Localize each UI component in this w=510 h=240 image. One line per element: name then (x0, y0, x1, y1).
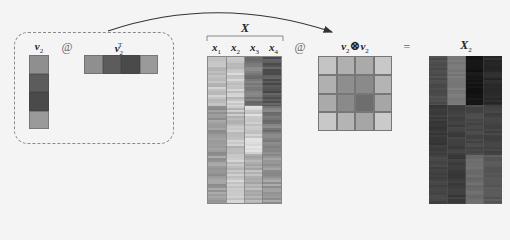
outer-product-symbol: ⊗ (350, 38, 361, 53)
x-matrix-row-strip (208, 202, 226, 204)
outer-product-cell (318, 94, 337, 113)
outer-product-cell (318, 56, 337, 75)
v2-cell (29, 92, 49, 111)
x-matrix-label: X (236, 23, 254, 34)
outer-product-cell (337, 75, 356, 94)
outer-product-cell (374, 75, 393, 94)
x2-matrix-row-strip (429, 203, 447, 204)
x3-sub: 3 (256, 48, 260, 56)
x4-sub: 4 (275, 48, 279, 56)
x2-sub: 2 (237, 48, 241, 56)
x2-matrix-row-strip (447, 203, 465, 204)
v2-cell (29, 111, 49, 130)
outer-right-sub: 2 (365, 47, 369, 55)
x-data-matrix (207, 56, 282, 204)
outer-product-cell (355, 94, 374, 113)
x1-sub: 1 (218, 48, 222, 56)
column-divider (447, 56, 448, 204)
v2-column-vector (29, 55, 49, 129)
column-divider (244, 57, 245, 203)
x2-result-matrix (429, 56, 502, 204)
v2T-cell (121, 55, 140, 74)
x-matrix-row-strip (263, 202, 281, 204)
outer-product-matrix (318, 56, 392, 131)
outer-product-cell (355, 75, 374, 94)
x2-matrix-row-strip (484, 203, 502, 204)
outer-product-cell (374, 112, 393, 131)
v2T-cell (103, 55, 122, 74)
outer-product-cell (318, 112, 337, 131)
v2-cell (29, 74, 49, 93)
outer-product-cell (337, 112, 356, 131)
outer-product-cell (355, 56, 374, 75)
v2-label-sub: 2 (40, 47, 44, 55)
x-matrix-row-strip (226, 202, 244, 204)
outer-product-cell (374, 94, 393, 113)
equals-operator: = (400, 40, 414, 55)
v2T-label-sup: T (118, 41, 122, 49)
column-divider (226, 57, 227, 203)
column-divider (465, 56, 466, 204)
v2T-row-vector (84, 55, 158, 74)
column-divider (262, 57, 263, 203)
v2T-cell (140, 55, 159, 74)
v2-cell (29, 55, 49, 74)
outer-product-cell (318, 75, 337, 94)
x-column-labels: x1 x2 x3 x4 (207, 42, 283, 54)
column-divider (483, 56, 484, 204)
x-matrix-row-strip (245, 202, 263, 204)
outer-product-cell (355, 112, 374, 131)
x2-matrix-label: X2 (454, 40, 478, 56)
x2-matrix-row-strip (466, 203, 484, 204)
outer-product-label: v2⊗v2 (330, 40, 380, 57)
outer-product-cell (337, 56, 356, 75)
outer-product-cell (337, 94, 356, 113)
x2-matrix-label-sub: 2 (468, 46, 472, 54)
v2T-cell (84, 55, 103, 74)
matmul-operator-1: @ (60, 40, 74, 55)
matmul-operator-2: @ (293, 40, 307, 55)
outer-product-cell (374, 56, 393, 75)
